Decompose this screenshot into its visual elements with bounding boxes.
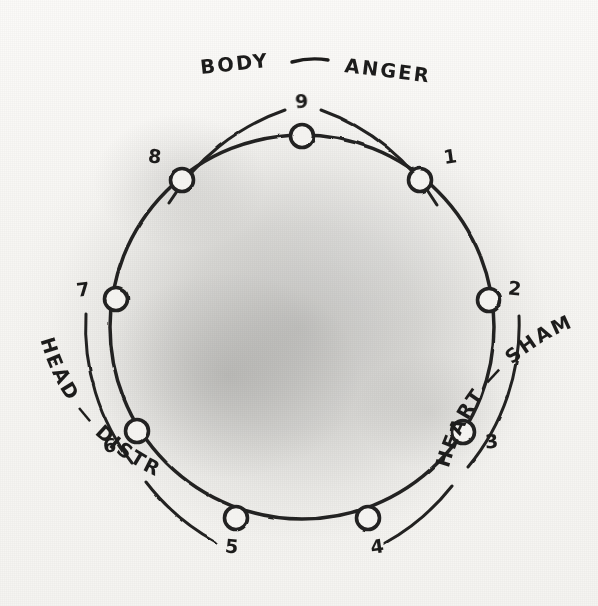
enneagram-point-1[interactable] [409,169,432,192]
group-label-body-separator [292,59,328,62]
point-number-label-4: 4 [369,534,385,558]
point-number-label-8: 8 [147,144,162,167]
enneagram-point-9[interactable] [291,125,314,148]
group-label-head-distress: HEAD — DISTRESS [0,0,165,482]
enneagram-drawing: 123456789 BODY ANGER HEART — SHAME HEAD … [0,0,598,606]
point-numbers-layer: 123456789 [75,90,523,558]
point-number-label-1: 1 [442,144,458,168]
enneagram-canvas: 123456789 BODY ANGER HEART — SHAME HEAD … [0,0,598,606]
point-number-label-7: 7 [75,277,91,301]
point-number-label-3: 3 [484,430,499,453]
nodes-layer [105,125,501,530]
group-label-head-text: HEAD — DISTRESS [0,0,165,482]
point-number-label-9: 9 [294,90,309,113]
enneagram-point-6[interactable] [126,420,149,443]
enneagram-point-7[interactable] [105,288,128,311]
enneagram-point-8[interactable] [171,169,194,192]
point-number-label-2: 2 [507,276,522,299]
point-number-label-5: 5 [224,534,239,557]
group-label-body-emotion: ANGER [343,54,432,87]
enneagram-point-4[interactable] [357,507,380,530]
enneagram-point-2[interactable] [478,289,501,312]
group-label-head-textpath: HEAD — DISTRESS [0,0,165,482]
group-label-body-anger: BODY ANGER [199,49,432,88]
enneagram-point-5[interactable] [225,507,248,530]
group-label-body-center: BODY [199,49,270,79]
